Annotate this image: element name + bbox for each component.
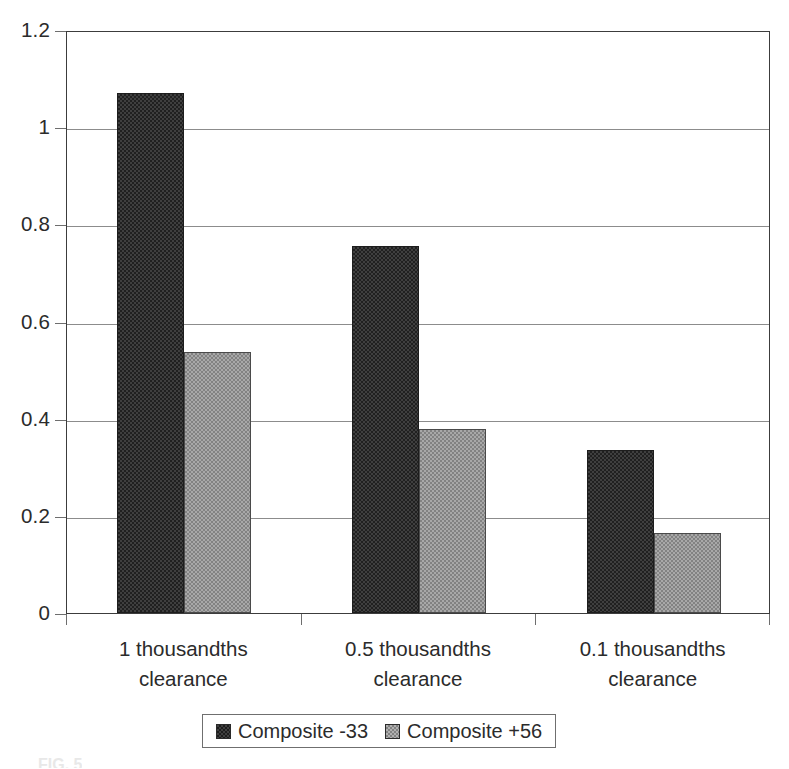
- x-axis-tick-label-line: clearance: [301, 664, 536, 694]
- plot-area: [66, 31, 770, 614]
- x-axis-tick-label-line: clearance: [535, 664, 770, 694]
- y-axis-tick-mark: [55, 517, 66, 518]
- legend-swatch-dark: [216, 724, 231, 739]
- bar-composite-plus-56-1: [184, 352, 251, 613]
- y-axis-tick-mark: [55, 420, 66, 421]
- x-axis-tick-mark: [535, 614, 536, 625]
- legend-entry: Composite -33: [216, 721, 368, 741]
- legend-label: Composite -33: [238, 721, 368, 741]
- y-axis-tick-label: 0: [2, 603, 50, 624]
- bar-composite-plus-56-2: [419, 429, 486, 613]
- y-axis-tick-label: 0.8: [2, 214, 50, 235]
- bar-composite-minus-33-2: [352, 246, 419, 613]
- y-axis-tick-mark: [55, 128, 66, 129]
- legend-entry: Composite +56: [385, 721, 542, 741]
- x-axis-tick-label-line: 0.1 thousandths: [535, 634, 770, 664]
- legend-label: Composite +56: [407, 721, 542, 741]
- y-axis-tick-label: 1: [2, 117, 50, 138]
- y-axis-tick-label: 1.2: [2, 20, 50, 41]
- figure-caption: FIG. 5: [38, 757, 82, 768]
- bar-chart-figure: 00.20.40.60.811.2 1 thousandthsclearance…: [0, 0, 789, 769]
- bar-composite-minus-33-1: [117, 93, 184, 613]
- x-axis-tick-label-line: 0.5 thousandths: [301, 634, 536, 664]
- y-axis-tick-label: 0.6: [2, 312, 50, 333]
- x-axis-tick-label-line: 1 thousandths: [66, 634, 301, 664]
- x-axis-tick-mark: [769, 614, 770, 625]
- y-axis-tick-mark: [55, 225, 66, 226]
- x-axis-tick-mark: [66, 614, 67, 625]
- x-axis-tick-marks: [66, 614, 770, 626]
- bar-composite-plus-56-3: [654, 533, 721, 613]
- y-axis-tick-labels: 00.20.40.60.811.2: [0, 0, 50, 769]
- bar-composite-minus-33-3: [587, 450, 654, 613]
- chart-legend: Composite -33Composite +56: [202, 714, 556, 748]
- x-axis-tick-label: 0.1 thousandthsclearance: [535, 634, 770, 694]
- x-axis-tick-label: 0.5 thousandthsclearance: [301, 634, 536, 694]
- x-axis-tick-mark: [301, 614, 302, 625]
- y-axis-tick-mark: [55, 31, 66, 32]
- x-axis-tick-labels: 1 thousandthsclearance0.5 thousandthscle…: [66, 634, 770, 704]
- x-axis-tick-label: 1 thousandthsclearance: [66, 634, 301, 694]
- legend-swatch-light: [385, 724, 400, 739]
- y-axis-tick-mark: [55, 614, 66, 615]
- y-axis-tick-label: 0.4: [2, 409, 50, 430]
- y-axis-tick-mark: [55, 323, 66, 324]
- x-axis-tick-label-line: clearance: [66, 664, 301, 694]
- y-axis-tick-label: 0.2: [2, 506, 50, 527]
